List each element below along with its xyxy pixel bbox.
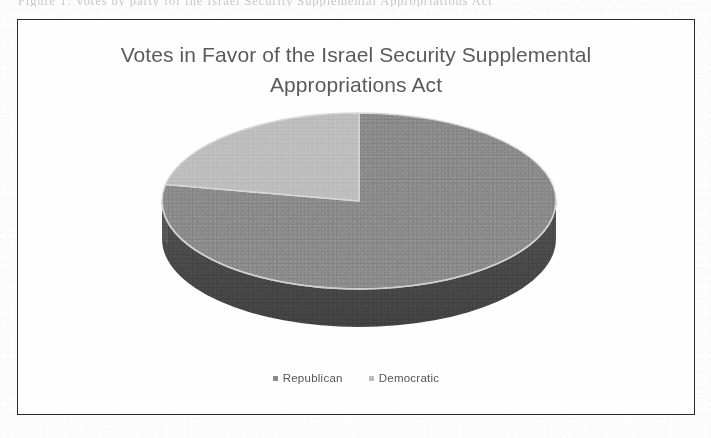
pie-scan-grain	[158, 112, 578, 362]
pie-side-wall-republican	[162, 201, 556, 327]
pie-side-wall	[162, 201, 556, 327]
legend-item-democratic[interactable]: Democratic	[369, 372, 440, 384]
chart-title-line-2: Appropriations Act	[58, 70, 654, 100]
pie-slice-republican	[162, 113, 556, 289]
pie-rim-highlight	[162, 201, 556, 289]
chart-frame: Votes in Favor of the Israel Security Su…	[17, 19, 695, 415]
cutoff-text-above: Figure 1: Votes by party for the Israel …	[18, 0, 638, 7]
legend-swatch-democratic-icon	[369, 376, 374, 381]
legend-label-republican: Republican	[283, 372, 343, 384]
legend-swatch-republican-icon	[273, 376, 278, 381]
pie-side-wall-left-facet	[162, 201, 168, 245]
pie-top-face	[162, 113, 556, 289]
legend-label-democratic: Democratic	[379, 372, 440, 384]
pie-slice-democratic	[166, 113, 360, 201]
chart-title-line-1: Votes in Favor of the Israel Security Su…	[58, 40, 654, 70]
chart-legend: Republican Democratic	[18, 372, 694, 384]
chart-title: Votes in Favor of the Israel Security Su…	[18, 40, 694, 100]
legend-item-republican[interactable]: Republican	[273, 372, 343, 384]
